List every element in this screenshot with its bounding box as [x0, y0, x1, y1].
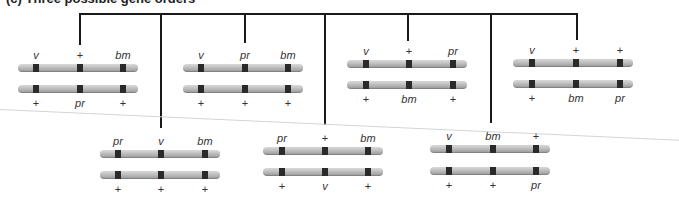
allele-label: pr	[68, 97, 92, 109]
gene-band	[285, 64, 291, 72]
gene-band	[198, 85, 204, 93]
gene-band	[120, 64, 126, 72]
diagram-title-clipped: (c) Three possible gene orders	[6, 0, 195, 6]
allele-label: +	[149, 183, 173, 195]
allele-label: +	[189, 97, 213, 109]
gene-band	[158, 171, 164, 179]
connector-to-pair-3	[407, 13, 409, 41]
chromosome-top	[100, 150, 220, 158]
allele-label: +	[564, 44, 588, 56]
allele-label: bm	[397, 93, 421, 105]
chromosome-pair-2: v pr bm + + +	[183, 49, 303, 109]
gene-band	[617, 80, 623, 88]
gene-band	[363, 81, 369, 89]
gene-band	[279, 147, 285, 155]
gene-band	[617, 59, 623, 67]
chromosome-top	[183, 64, 303, 72]
chromosome-bottom	[263, 168, 383, 176]
gene-band	[365, 168, 371, 176]
allele-label: v	[189, 49, 213, 61]
gene-band	[202, 150, 208, 158]
chromosome-top	[18, 64, 138, 72]
connector-to-pair-1	[79, 13, 81, 45]
gene-band	[120, 85, 126, 93]
gene-band	[322, 168, 328, 176]
allele-label: +	[276, 97, 300, 109]
allele-label: +	[354, 93, 378, 105]
allele-label: v	[313, 180, 337, 192]
chromosome-bottom	[347, 81, 467, 89]
allele-label: +	[106, 183, 130, 195]
allele-label: pr	[270, 132, 294, 144]
gene-band	[285, 85, 291, 93]
allele-label: bm	[111, 49, 135, 61]
allele-label: +	[111, 97, 135, 109]
chromosome-pair-1: v + bm + pr +	[18, 49, 138, 109]
allele-label: pr	[524, 179, 548, 191]
gene-band	[450, 60, 456, 68]
allele-label: bm	[481, 130, 505, 142]
allele-label: pr	[441, 45, 465, 57]
connector-to-pair-7	[490, 13, 492, 123]
gene-band	[365, 147, 371, 155]
chromosome-pair-3: v + pr + bm +	[347, 45, 467, 105]
gene-band	[446, 145, 452, 153]
allele-label: v	[520, 44, 544, 56]
gene-band	[533, 167, 539, 175]
chromosome-top	[513, 59, 633, 67]
chromosome-bottom	[513, 80, 633, 88]
gene-band	[33, 64, 39, 72]
gene-band	[406, 81, 412, 89]
allele-label: +	[437, 179, 461, 191]
gene-band	[158, 150, 164, 158]
chromosome-bottom	[100, 171, 220, 179]
gene-band	[533, 145, 539, 153]
gene-band	[279, 168, 285, 176]
gene-band	[446, 167, 452, 175]
gene-band	[406, 60, 412, 68]
gene-band	[529, 59, 535, 67]
allele-label: bm	[193, 135, 217, 147]
gene-band	[573, 80, 579, 88]
allele-label: v	[149, 135, 173, 147]
chromosome-pair-7: v bm + + + pr	[430, 130, 550, 190]
gene-band	[490, 145, 496, 153]
gene-band	[115, 150, 121, 158]
allele-label: +	[481, 179, 505, 191]
connector-to-pair-5	[160, 13, 162, 128]
allele-label: +	[233, 97, 257, 109]
gene-band	[242, 64, 248, 72]
connector-horizontal	[80, 13, 578, 15]
allele-label: pr	[233, 49, 257, 61]
chromosome-pair-6: pr + bm + v +	[263, 132, 383, 192]
allele-label: v	[24, 49, 48, 61]
gene-band	[529, 80, 535, 88]
allele-label: +	[313, 132, 337, 144]
allele-label: bm	[564, 92, 588, 104]
allele-label: v	[437, 130, 461, 142]
gene-band	[450, 81, 456, 89]
gene-band	[202, 171, 208, 179]
allele-label: +	[397, 45, 421, 57]
gene-band	[322, 147, 328, 155]
allele-label: +	[441, 93, 465, 105]
allele-label: +	[68, 49, 92, 61]
chromosome-bottom	[183, 85, 303, 93]
gene-band	[242, 85, 248, 93]
allele-label: +	[520, 92, 544, 104]
chromosome-top	[430, 145, 550, 153]
connector-to-pair-4	[576, 13, 578, 40]
chromosome-bottom	[18, 85, 138, 93]
allele-label: +	[193, 183, 217, 195]
allele-label: +	[356, 180, 380, 192]
gene-band	[573, 59, 579, 67]
chromosome-pair-4: v + + + bm pr	[513, 44, 633, 104]
connector-to-pair-6	[324, 13, 326, 125]
allele-label: +	[270, 180, 294, 192]
gene-band	[115, 171, 121, 179]
connector-to-pair-2	[244, 13, 246, 43]
gene-band	[363, 60, 369, 68]
allele-label: +	[608, 44, 632, 56]
allele-label: pr	[106, 135, 130, 147]
gene-band	[33, 85, 39, 93]
